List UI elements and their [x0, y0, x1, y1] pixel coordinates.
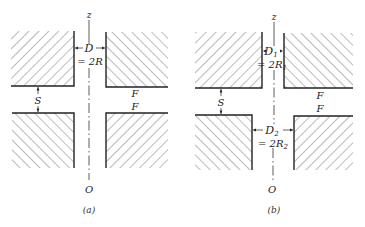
- panel-caption: (b): [268, 205, 281, 215]
- face-label-upper: F: [316, 90, 325, 101]
- diameter-label: D: [84, 42, 94, 55]
- panel-caption: (a): [83, 205, 96, 215]
- panel-b: z O D1 = 2R1 D2 = 2R2 S F F (b): [195, 12, 353, 215]
- face-label-upper: F: [131, 88, 140, 99]
- axis-top-label: z: [86, 10, 92, 20]
- axis-top-label: z: [271, 12, 277, 22]
- gap-label: S: [218, 97, 225, 108]
- lower-right-electrode: [106, 113, 168, 168]
- diameter-equation: = 2R: [77, 56, 103, 67]
- lower-right-electrode: [294, 116, 353, 170]
- panel-a: z O D = 2R S F F (a): [11, 10, 168, 215]
- lower-left-electrode: [12, 113, 74, 168]
- face-label-lower: F: [316, 103, 325, 114]
- upper-left-electrode: [11, 31, 74, 86]
- upper-right-electrode: [284, 33, 353, 88]
- axis-bottom-label: O: [268, 184, 276, 195]
- gap-label: S: [35, 95, 42, 106]
- diameter2-label: D2: [264, 124, 279, 138]
- upper-left-electrode: [195, 32, 262, 88]
- upper-right-electrode: [106, 32, 168, 87]
- diameter1-label: D1: [263, 45, 277, 59]
- lower-left-electrode: [195, 115, 252, 170]
- face-label-lower: F: [131, 101, 140, 112]
- electrode-diagram: z O D = 2R S F F (a) z O: [0, 0, 365, 227]
- axis-bottom-label: O: [85, 184, 93, 195]
